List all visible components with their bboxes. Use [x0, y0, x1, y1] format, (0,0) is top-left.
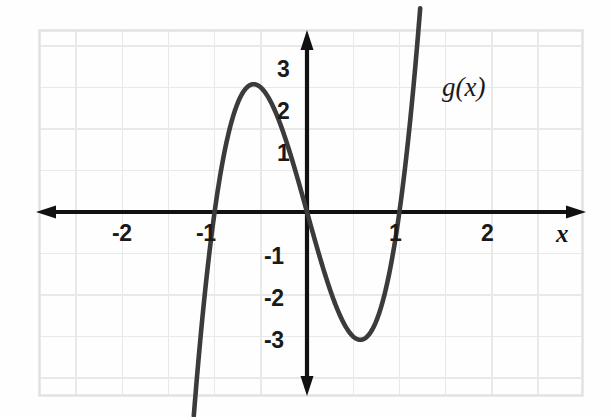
y-tick-label-neg2: -2 [264, 287, 283, 310]
x-tick-label-pos1: 1 [389, 222, 401, 245]
x-tick-label-neg2: -2 [112, 222, 131, 245]
y-tick-label-neg3: -3 [264, 329, 283, 352]
graph-figure: -2 -1 1 2 3 2 1 -1 -2 -3 x g(x) [0, 0, 611, 417]
x-tick-label-neg1: -1 [196, 222, 215, 245]
x-tick-label-pos2: 2 [481, 222, 493, 245]
y-tick-label-neg1: -1 [264, 245, 283, 268]
coordinate-plane [0, 0, 611, 417]
y-tick-label-pos1: 1 [277, 142, 289, 165]
y-tick-label-pos2: 2 [277, 100, 289, 123]
x-axis-name-label: x [556, 221, 569, 246]
curve-name-label: g(x) [442, 74, 485, 101]
y-tick-label-pos3: 3 [277, 58, 289, 81]
